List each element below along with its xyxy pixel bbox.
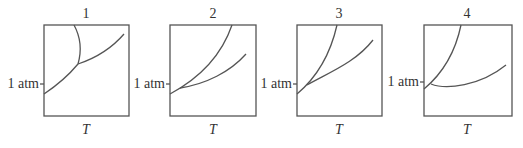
panel-3-frame xyxy=(297,25,382,116)
panel-3-upper-curve xyxy=(297,25,337,94)
panel-3-pressure-label: 1 atm xyxy=(261,77,293,91)
panel-4-lower-curve xyxy=(431,65,506,87)
panel-2-upper-curve xyxy=(170,25,232,94)
panel-1-pressure-label: 1 atm xyxy=(8,77,40,91)
panel-2-frame xyxy=(170,25,256,116)
panel-1-x-axis-label: T xyxy=(82,123,90,137)
panel-1-plot xyxy=(40,25,129,116)
panel-1-title: 1 xyxy=(83,7,90,21)
panel-3-plot xyxy=(293,25,382,116)
panel-3-x-axis-label: T xyxy=(335,123,343,137)
panel-3-title: 3 xyxy=(336,7,343,21)
panel-3-lower-curve xyxy=(307,40,373,85)
panel-4-x-axis-label: T xyxy=(463,123,471,137)
panel-2-plot xyxy=(166,25,256,116)
panel-1-vaporization-curve xyxy=(78,34,124,64)
panel-2-pressure-label: 1 atm xyxy=(134,77,166,91)
panel-1-melting-curve xyxy=(74,25,80,64)
panel-1-sublimation-curve xyxy=(44,64,78,94)
panel-2-x-axis-label: T xyxy=(209,123,217,137)
panel-4-pressure-label: 1 atm xyxy=(388,75,420,89)
panel-2-title: 2 xyxy=(210,7,217,21)
panel-4-title: 4 xyxy=(464,7,471,21)
panel-4-plot xyxy=(420,25,512,116)
phase-diagrams xyxy=(0,0,523,148)
panel-4-upper-curve xyxy=(424,25,461,89)
panel-1-frame xyxy=(44,25,129,116)
